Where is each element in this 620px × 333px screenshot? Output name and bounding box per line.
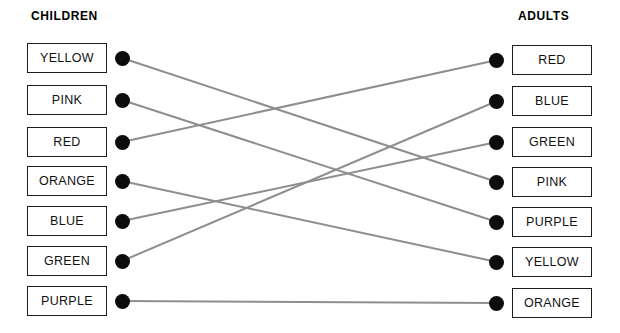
children-box-green[interactable]: GREEN [27, 246, 107, 276]
children-box-orange[interactable]: ORANGE [27, 166, 107, 196]
adults-label: RED [538, 53, 565, 67]
children-box-yellow[interactable]: YELLOW [27, 43, 107, 73]
matching-diagram: CHILDREN ADULTS YELLOWPINKREDORANGEBLUEG… [0, 0, 620, 333]
connection-line-pink-to-purple[interactable] [122, 100, 497, 222]
children-box-purple[interactable]: PURPLE [27, 286, 107, 316]
adults-connector-dot-blue[interactable] [489, 94, 504, 109]
adults-connector-dot-yellow[interactable] [489, 255, 504, 270]
adults-connector-dot-pink[interactable] [489, 175, 504, 190]
adults-column-heading: ADULTS [518, 9, 569, 23]
adults-label: YELLOW [525, 255, 579, 269]
adults-box-purple[interactable]: PURPLE [512, 207, 592, 237]
adults-box-blue[interactable]: BLUE [512, 86, 592, 116]
connection-line-yellow-to-pink[interactable] [122, 58, 497, 182]
children-label: BLUE [50, 214, 84, 228]
children-connector-dot-green[interactable] [115, 254, 130, 269]
connection-line-blue-to-green[interactable] [122, 142, 497, 221]
children-label: YELLOW [40, 51, 94, 65]
children-connector-dot-yellow[interactable] [115, 51, 130, 66]
adults-box-green[interactable]: GREEN [512, 127, 592, 157]
children-connector-dot-blue[interactable] [115, 214, 130, 229]
adults-label: GREEN [529, 135, 575, 149]
children-box-red[interactable]: RED [27, 127, 107, 157]
children-connector-dot-orange[interactable] [115, 174, 130, 189]
adults-connector-dot-green[interactable] [489, 135, 504, 150]
children-connector-dot-red[interactable] [115, 135, 130, 150]
children-label: GREEN [44, 254, 90, 268]
connection-line-orange-to-yellow[interactable] [122, 181, 497, 262]
adults-connector-dot-orange[interactable] [489, 296, 504, 311]
adults-connector-dot-red[interactable] [489, 53, 504, 68]
adults-box-pink[interactable]: PINK [512, 167, 592, 197]
children-box-blue[interactable]: BLUE [27, 206, 107, 236]
adults-box-orange[interactable]: ORANGE [512, 288, 592, 318]
adults-connector-dot-purple[interactable] [489, 215, 504, 230]
children-label: PURPLE [41, 294, 93, 308]
children-column-heading: CHILDREN [31, 9, 98, 23]
adults-box-red[interactable]: RED [512, 45, 592, 75]
adults-box-yellow[interactable]: YELLOW [512, 247, 592, 277]
children-box-pink[interactable]: PINK [27, 85, 107, 115]
connection-line-green-to-blue[interactable] [122, 101, 497, 261]
connection-line-red-to-red[interactable] [122, 60, 497, 142]
adults-label: PINK [537, 175, 567, 189]
children-connector-dot-purple[interactable] [115, 294, 130, 309]
children-label: ORANGE [39, 174, 95, 188]
adults-label: BLUE [535, 94, 569, 108]
adults-label: ORANGE [524, 296, 580, 310]
children-connector-dot-pink[interactable] [115, 93, 130, 108]
children-label: RED [53, 135, 80, 149]
connection-line-purple-to-orange[interactable] [122, 301, 497, 303]
children-label: PINK [52, 93, 82, 107]
adults-label: PURPLE [526, 215, 578, 229]
